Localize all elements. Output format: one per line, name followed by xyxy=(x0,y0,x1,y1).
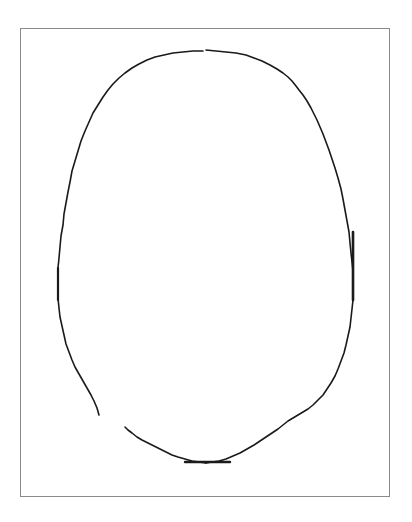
contour-path-left xyxy=(58,51,203,415)
contour-path-right xyxy=(206,50,353,463)
contour-path-bottom-left xyxy=(125,427,206,463)
figure-root: Ovoid outline contour Binarized scan of … xyxy=(0,0,412,522)
ovoid-contour-svg xyxy=(0,0,412,522)
